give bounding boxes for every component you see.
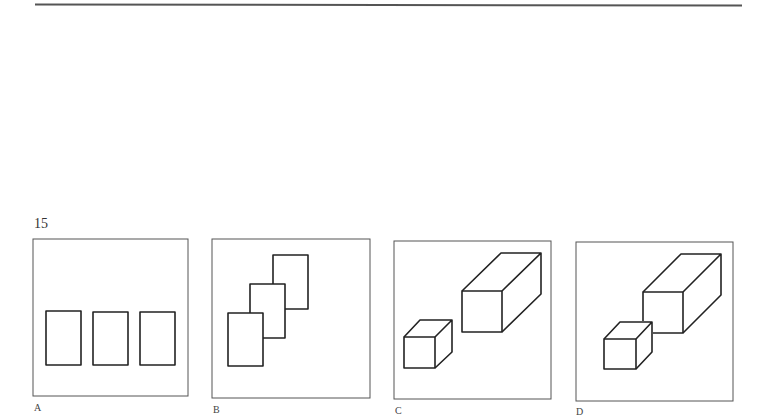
option-c-figure [404, 253, 541, 368]
option-a-label: A [34, 402, 41, 413]
option-figures [0, 0, 770, 417]
option-b-frame[interactable] [212, 239, 370, 398]
option-b-label: B [213, 404, 220, 415]
option-b-figure [228, 255, 308, 366]
option-d-figure [604, 254, 721, 369]
option-c-frame[interactable] [394, 241, 551, 399]
option-a-frame[interactable] [33, 239, 188, 396]
option-d-label: D [576, 406, 583, 417]
option-a-figure [46, 311, 175, 365]
option-c-label: C [395, 405, 402, 416]
